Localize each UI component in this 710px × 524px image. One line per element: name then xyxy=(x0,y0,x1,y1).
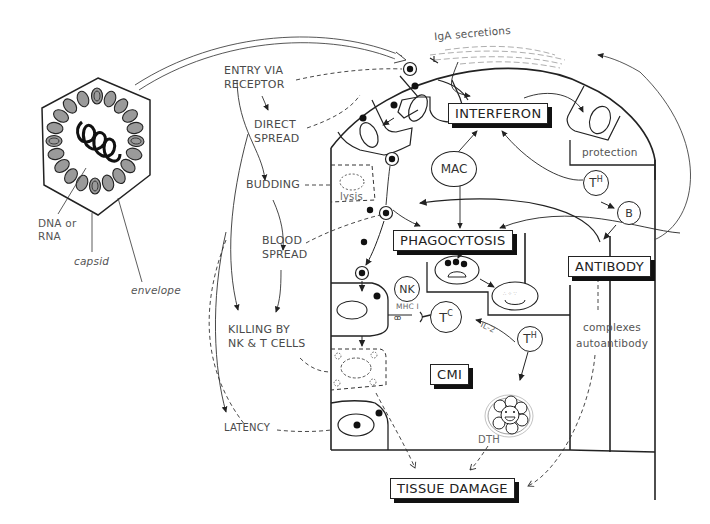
complexes-label: complexes xyxy=(583,321,641,334)
lysis-label: lysis xyxy=(340,191,363,204)
blood-spread-label: BLOOD SPREAD xyxy=(262,234,307,262)
envelope-label: envelope xyxy=(131,284,181,297)
diagram-canvas: ꝏ ∴ ⁘ ∵ xyxy=(0,0,710,524)
entry-via-receptor-label: ENTRY VIA RECEPTOR xyxy=(224,64,284,92)
svg-text:∴ ⁘ ∵: ∴ ⁘ ∵ xyxy=(503,290,517,296)
latency-label: LATENCY xyxy=(224,422,270,435)
b-cell: B xyxy=(617,201,641,225)
cmi-box: CMI xyxy=(430,364,469,385)
budding-label: BUDDING xyxy=(246,178,300,192)
protection-label: protection xyxy=(582,146,638,159)
dth-macrophage xyxy=(485,395,533,437)
virus-particle xyxy=(42,78,150,282)
dth-label: DTH xyxy=(478,434,500,447)
capsid-label: capsid xyxy=(74,255,109,268)
nk-cell: NK xyxy=(394,276,420,302)
mhc-label: MHC I xyxy=(396,302,419,311)
svg-text:ꝏ: ꝏ xyxy=(394,314,401,322)
phagocytosis-box: PHAGOCYTOSIS xyxy=(393,230,513,251)
autoantibody-label: autoantibody xyxy=(576,337,648,350)
tissue-damage-box: TISSUE DAMAGE xyxy=(390,478,515,499)
antibody-box: ANTIBODY xyxy=(568,256,651,277)
cytotoxic-t-cell: TC xyxy=(430,301,462,333)
killing-label: KILLING BY NK & T CELLS xyxy=(228,323,306,351)
direct-spread-label: DIRECT SPREAD xyxy=(254,118,299,146)
genome-label: DNA or RNA xyxy=(38,217,76,243)
helper-t-cell-cmi: TH xyxy=(517,326,543,352)
macrophage-cell: MAC xyxy=(431,151,477,187)
helper-t-cell-humoral: TH xyxy=(583,170,609,196)
interferon-box: INTERFERON xyxy=(448,103,548,124)
